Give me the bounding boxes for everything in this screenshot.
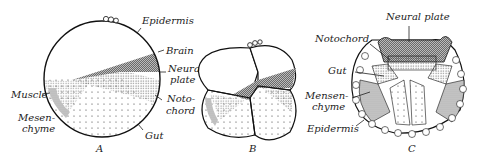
label-neural: Neural	[167, 63, 203, 74]
label-epidermis-c: Epidermis	[306, 123, 359, 134]
label-muscle: Muscle	[10, 89, 48, 100]
label-plate: plate	[170, 74, 196, 85]
panel-label-b: B	[248, 143, 256, 154]
label-epidermis: Epidermis	[141, 15, 194, 26]
label-chyme-c: chyme	[312, 101, 345, 112]
label-chyme: chyme	[22, 123, 55, 134]
panel-b: B	[198, 40, 296, 154]
label-gut-c: Gut	[328, 65, 347, 76]
panel-a: Epidermis Brain Neural plate Noto- chord…	[10, 15, 203, 154]
label-mensen: Mensen-	[304, 90, 349, 101]
label-brain: Brain	[165, 45, 194, 56]
label-notochord: Notochord	[314, 33, 369, 44]
panel-label-a: A	[95, 143, 103, 154]
panel-c: Neural plate Notochord Gut Mensen- chyme…	[304, 11, 467, 154]
label-mesen: Mesen-	[17, 112, 56, 123]
embryo-fate-map-diagram: Epidermis Brain Neural plate Noto- chord…	[0, 0, 481, 157]
label-neural-plate: Neural plate	[385, 11, 450, 22]
label-noto: Noto-	[166, 93, 196, 104]
label-chord: chord	[166, 105, 195, 116]
panel-label-c: C	[408, 143, 416, 154]
label-gut: Gut	[145, 130, 164, 141]
